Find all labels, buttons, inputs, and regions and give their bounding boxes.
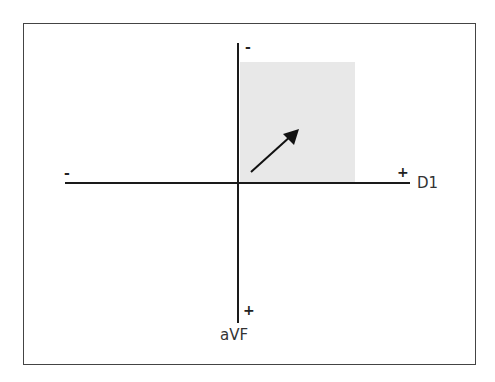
- avf-positive-sign: +: [243, 303, 255, 317]
- avf-negative-sign: -: [245, 40, 251, 54]
- d1-positive-sign: +: [397, 165, 409, 179]
- avf-axis-label: aVF: [220, 328, 248, 343]
- shaded-quadrant: [240, 62, 355, 183]
- d1-negative-sign: -: [64, 166, 70, 180]
- d1-axis-label: D1: [417, 176, 438, 191]
